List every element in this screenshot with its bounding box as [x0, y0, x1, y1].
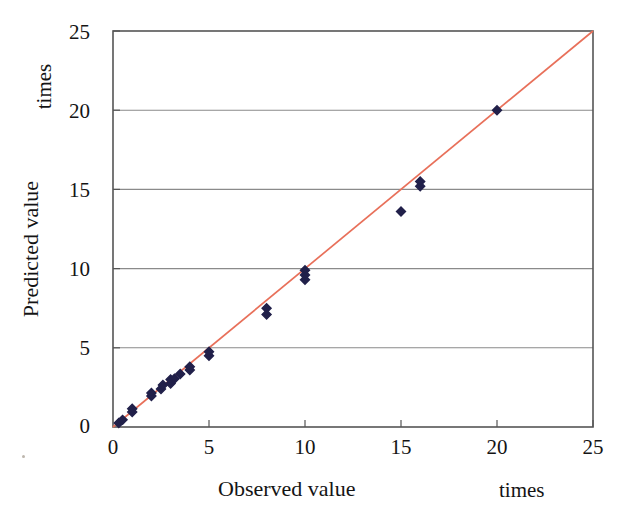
y-tickmarks-group	[113, 31, 120, 348]
scatter-plot-figure: Predicted value times 25 20 15 10 5 0 0 …	[0, 0, 637, 525]
data-point	[262, 304, 271, 313]
x-tickmarks-group	[209, 420, 593, 427]
plot-canvas	[0, 0, 637, 525]
identity-reference-line	[113, 31, 593, 427]
data-point	[397, 207, 406, 216]
